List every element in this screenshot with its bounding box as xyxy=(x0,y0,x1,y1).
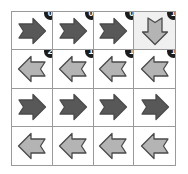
grid-cell[interactable] xyxy=(53,89,94,127)
grid-cell[interactable] xyxy=(94,127,135,165)
grid-cell[interactable] xyxy=(134,127,175,165)
grid-cell[interactable]: 1 xyxy=(134,12,175,50)
arrow-down-icon xyxy=(138,14,172,48)
arrow-left-icon xyxy=(138,52,172,86)
grid-cell[interactable]: 0 xyxy=(12,12,53,50)
grid-cell[interactable] xyxy=(134,89,175,127)
arrow-right-icon xyxy=(15,90,49,124)
arrow-left-icon xyxy=(96,52,130,86)
arrow-right-icon xyxy=(96,14,130,48)
arrow-right-icon xyxy=(56,90,90,124)
arrow-left-icon xyxy=(15,52,49,86)
grid-cell[interactable]: 0 xyxy=(94,12,135,50)
arrow-left-icon xyxy=(96,129,130,163)
arrow-left-icon xyxy=(56,129,90,163)
grid-cell[interactable] xyxy=(94,89,135,127)
grid-cell[interactable]: 1 xyxy=(94,50,135,88)
grid-cell[interactable] xyxy=(12,127,53,165)
grid-cell[interactable]: 0 xyxy=(53,12,94,50)
arrow-grid: 00012111 xyxy=(11,11,176,166)
grid-cell[interactable]: 2 xyxy=(12,50,53,88)
arrow-left-icon xyxy=(15,129,49,163)
grid-cell[interactable] xyxy=(12,89,53,127)
arrow-right-icon xyxy=(56,14,90,48)
grid-cell[interactable]: 1 xyxy=(53,50,94,88)
grid-cell[interactable]: 1 xyxy=(134,50,175,88)
arrow-left-icon xyxy=(56,52,90,86)
grid-cell[interactable] xyxy=(53,127,94,165)
arrow-right-icon xyxy=(15,14,49,48)
arrow-left-icon xyxy=(138,129,172,163)
arrow-right-icon xyxy=(138,90,172,124)
arrow-right-icon xyxy=(96,90,130,124)
